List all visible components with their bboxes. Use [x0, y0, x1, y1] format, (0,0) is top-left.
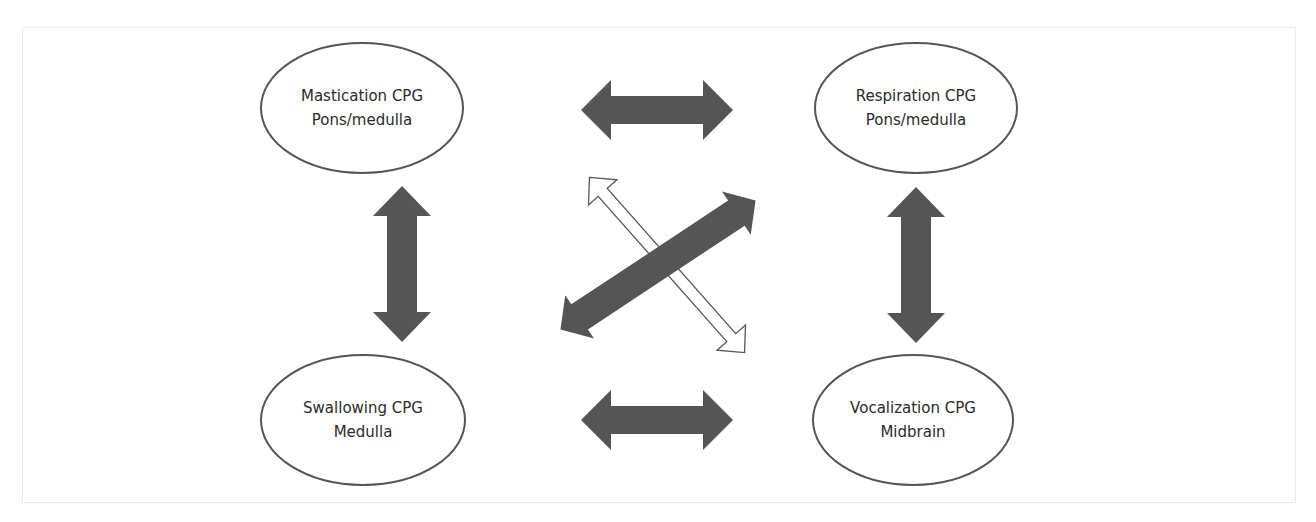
double-arrow-swallowing-respiration-icon: [546, 179, 770, 352]
node-title: Swallowing CPG: [303, 396, 423, 420]
node-title: Mastication CPG: [301, 84, 423, 108]
node-location: Pons/medulla: [866, 108, 966, 132]
node-location: Midbrain: [880, 420, 945, 444]
double-arrow-swallowing-vocalization-icon: [581, 390, 733, 450]
node-respiration: Respiration CPG Pons/medulla: [816, 60, 1016, 156]
node-vocalization: Vocalization CPG Midbrain: [813, 372, 1013, 468]
node-swallowing: Swallowing CPG Medulla: [263, 372, 463, 468]
node-location: Medulla: [334, 420, 393, 444]
double-arrow-mastication-swallowing-icon: [373, 186, 431, 342]
double-arrow-respiration-vocalization-icon: [887, 187, 945, 343]
double-arrow-mastication-respiration-icon: [581, 80, 733, 140]
node-title: Vocalization CPG: [850, 396, 976, 420]
node-mastication: Mastication CPG Pons/medulla: [262, 60, 462, 156]
node-title: Respiration CPG: [856, 84, 976, 108]
diagram-canvas: [0, 0, 1316, 522]
node-location: Pons/medulla: [312, 108, 412, 132]
